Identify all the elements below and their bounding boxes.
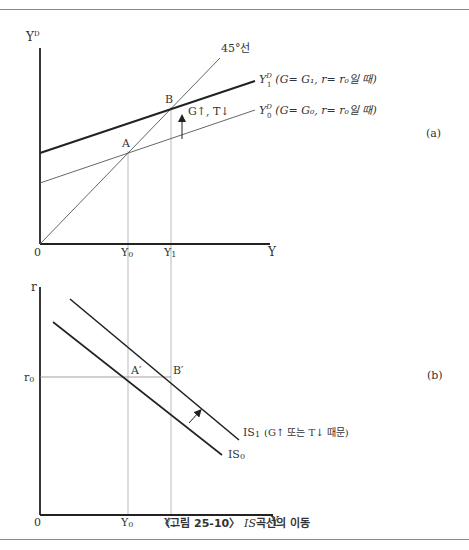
panel-b: r r0 0 Y A′ B′ Y0 Y1 IS1(G↑ 또는 T↓ 때문) IS… xyxy=(24,280,443,529)
curve-yd1-label: YD1(G= G₁, r= r₀일 때) xyxy=(259,72,377,89)
is1-curve xyxy=(70,299,239,440)
origin-a: 0 xyxy=(34,246,41,259)
shift-arrow-b xyxy=(189,412,199,423)
caption-prefix: 〈그림 25-10〉 xyxy=(159,517,244,530)
is0-curve xyxy=(53,322,222,455)
point-a-prime: A′ xyxy=(130,364,142,377)
is0-label: IS0 xyxy=(228,448,245,461)
point-b: B xyxy=(165,93,173,106)
shift-label-a: G↑, T↓ xyxy=(188,105,230,118)
panel-b-tag: (b) xyxy=(427,369,443,382)
caption-is: IS xyxy=(244,517,256,530)
curve-yd0-label: YD0(G= G₀, r= r₀일 때) xyxy=(259,103,377,120)
panel-a-tag: (a) xyxy=(426,127,441,140)
yd-axis-label: YD xyxy=(25,30,40,44)
figure-caption: 〈그림 25-10〉 IS곡선의 이동 xyxy=(0,514,469,530)
y-axis-a-label: Y xyxy=(267,245,277,259)
y1-tick-a: Y1 xyxy=(163,246,176,259)
is1-label: IS1(G↑ 또는 T↓ 때문) xyxy=(243,426,349,439)
r-axis-label: r xyxy=(31,280,37,294)
is-curve-diagram: YD 0 Y 45°선 A B Y0 Y1 G↑, T↓ YD1(G= G₁, … xyxy=(0,0,469,550)
line-45-degree xyxy=(40,58,220,244)
caption-suffix: 곡선의 이동 xyxy=(256,517,310,530)
point-a: A xyxy=(121,137,131,150)
panel-a: YD 0 Y 45°선 A B Y0 Y1 G↑, T↓ YD1(G= G₁, … xyxy=(25,30,441,515)
point-b-prime: B′ xyxy=(173,364,184,377)
r0-label: r0 xyxy=(24,371,34,384)
line-45-label: 45°선 xyxy=(221,42,251,55)
curve-yd0 xyxy=(40,110,255,183)
y0-tick-a: Y0 xyxy=(120,246,133,259)
